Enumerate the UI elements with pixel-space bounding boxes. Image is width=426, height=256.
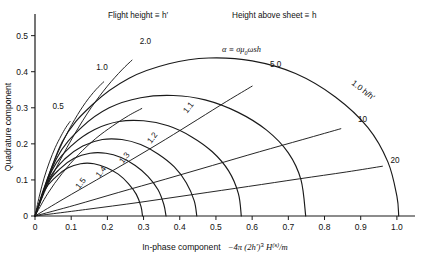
x-tick-label-0: 0 <box>33 222 38 232</box>
y-tick-label-0.5: 0.5 <box>16 31 28 41</box>
alpha-definition-note: α ≡ σμ0ωsh <box>222 45 261 56</box>
curve-label-alpha-0.5: 0.5 <box>53 102 65 111</box>
curve-label-h-1.2: 1.2 <box>145 130 159 145</box>
x-tick-label-0.4: 0.4 <box>174 222 186 232</box>
chart-figure: 00.10.20.30.40.50.60.70.80.91.000.10.20.… <box>0 0 426 256</box>
x-tick-label-0.6: 0.6 <box>246 222 258 232</box>
x-tick-label-1.0: 1.0 <box>391 222 403 232</box>
y-axis-title: Quadrature component <box>3 82 13 171</box>
curve-label-alpha-1.0: 1.0 <box>96 63 108 72</box>
y-tick-label-0.1: 0.1 <box>16 175 28 185</box>
curve-alpha-20 <box>35 166 382 216</box>
flight-height-note: Flight height ≡ h′ <box>108 11 168 20</box>
y-tick-label-0.4: 0.4 <box>16 67 28 77</box>
x-axis-title: In-phase component −4π (2h′)3 H(s)/m <box>142 242 288 252</box>
curve-alpha-10 <box>35 129 341 216</box>
curve-label-alpha-5.0: 5.0 <box>270 60 282 69</box>
curve-label-alpha-10: 10 <box>358 115 368 124</box>
curve-label-h-1.4: 1.4 <box>94 164 108 179</box>
x-tick-label-0.1: 0.1 <box>65 222 77 232</box>
x-tick-label-0.2: 0.2 <box>101 222 113 232</box>
curve-h-ratio-1.0 <box>35 58 399 216</box>
x-tick-label-0.8: 0.8 <box>319 222 331 232</box>
y-tick-label-0.3: 0.3 <box>16 103 28 113</box>
argand-diagram-svg: 00.10.20.30.40.50.60.70.80.91.000.10.20.… <box>0 0 426 256</box>
x-tick-label-0.7: 0.7 <box>282 222 294 232</box>
x-tick-label-0.9: 0.9 <box>355 222 367 232</box>
x-tick-label-0.3: 0.3 <box>138 222 150 232</box>
y-tick-label-0: 0 <box>23 211 28 221</box>
height-above-sheet-note: Height above sheet ≡ h <box>232 11 317 20</box>
curve-label-alpha-2.0: 2.0 <box>140 37 152 46</box>
curve-label-h-1.3: 1.3 <box>118 150 132 165</box>
y-tick-label-0.2: 0.2 <box>16 139 28 149</box>
curve-alpha-5.0 <box>35 86 252 216</box>
curve-label-h-1.1: 1.1 <box>182 100 196 115</box>
curve-label-h-1.5: 1.5 <box>74 176 88 191</box>
curve-label-alpha-20: 20 <box>391 156 401 165</box>
h-ratio-axis-label: 1.0 h/h′ <box>350 78 377 102</box>
x-tick-label-0.5: 0.5 <box>210 222 222 232</box>
